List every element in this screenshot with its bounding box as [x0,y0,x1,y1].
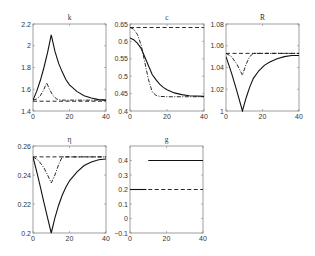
subplot-g: g02040−0.100.10.20.30.4 [114,135,207,242]
x-tick-label: 40 [102,113,110,120]
x-tick-label: 0 [31,113,35,120]
y-tick-label: 1.08 [210,21,224,28]
y-tick-label: 1.02 [210,86,224,93]
y-tick-label: 0.24 [17,172,31,179]
y-tick-label: 0.2 [118,186,128,193]
subplot-title: k [68,13,72,22]
subplot-rbar: R̄0204011.021.041.061.08 [210,13,303,120]
x-tick-label: 40 [200,113,208,120]
subplot-eta: η020400.20.220.240.26 [17,135,110,242]
y-tick-label: 0.55 [114,55,128,62]
x-tick-label: 40 [295,113,303,120]
axes-box [130,24,204,111]
y-tick-label: 2.2 [21,21,31,28]
x-tick-label: 40 [199,235,207,242]
x-tick-label: 0 [128,235,132,242]
y-tick-label: 1.04 [210,64,224,71]
subplot-title: c [165,13,169,22]
y-tick-label: 0.4 [118,108,128,115]
x-tick-label: 40 [102,235,110,242]
axes-box [33,146,106,233]
x-tick-label: 20 [259,113,267,120]
y-tick-label: 1.4 [21,108,31,115]
y-tick-label: 0.4 [118,157,128,164]
y-tick-label: 0.5 [118,73,128,80]
x-tick-label: 0 [224,113,228,120]
x-tick-label: 20 [66,235,74,242]
x-tick-label: 0 [31,235,35,242]
subplot-title: η [68,135,72,144]
y-tick-label: 2 [27,42,31,49]
y-tick-label: 0.65 [114,21,128,28]
y-tick-label: −0.1 [114,230,128,237]
y-tick-label: 0.2 [21,230,31,237]
x-tick-label: 20 [163,113,171,120]
y-tick-label: 0.26 [17,143,31,150]
y-tick-label: 1.6 [21,86,31,93]
figure-canvas: k020401.41.61.822.2c020400.40.450.50.550… [0,0,315,256]
subplot-title: R̄ [260,13,265,22]
y-tick-label: 1.06 [210,42,224,49]
subplot-title: g [165,135,169,144]
y-tick-label: 0.3 [118,172,128,179]
y-tick-label: 0.6 [118,38,128,45]
y-tick-label: 0.1 [118,201,128,208]
x-tick-label: 0 [128,113,132,120]
subplot-c: c020400.40.450.50.550.60.65 [114,13,208,120]
y-tick-label: 1.8 [21,64,31,71]
y-tick-label: 0 [124,215,128,222]
y-tick-label: 0.45 [114,90,128,97]
x-tick-label: 20 [66,113,74,120]
y-tick-label: 0.22 [17,201,31,208]
y-tick-label: 1 [220,108,224,115]
x-tick-label: 20 [163,235,171,242]
subplot-k: k020401.41.61.822.2 [21,13,110,120]
